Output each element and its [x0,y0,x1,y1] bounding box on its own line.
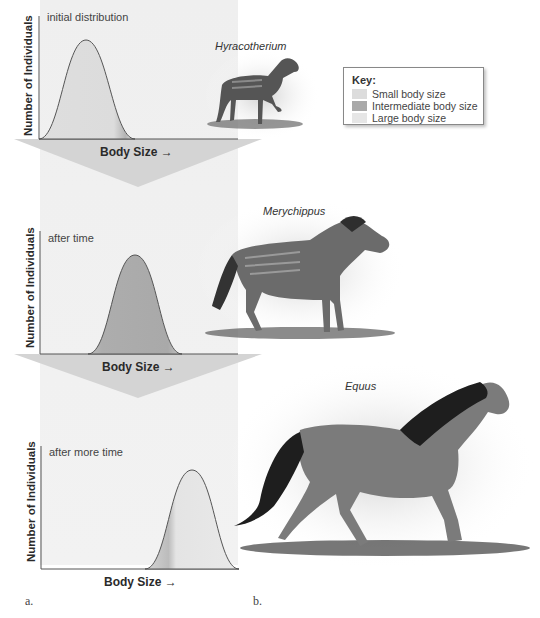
panel-2-x-axis-label: Body Size → [102,360,175,374]
equus-illustration [225,360,535,570]
swatch-large [352,113,367,123]
panel-a-label: a. [25,594,33,609]
panel-1-title: initial distribution [47,11,128,23]
key-label-intermediate: Intermediate body size [372,100,478,112]
species-label-equus: Equus [345,380,376,392]
key-item-large: Large body size [352,112,446,124]
panel-b-label: b. [253,594,262,609]
key-item-intermediate: Intermediate body size [352,100,478,112]
panel-1-y-axis-label: Number of Individuals [22,15,34,136]
panel-3-x-axis-label: Body Size → [104,575,177,589]
key-title: Key: [352,74,376,86]
curve-initial [39,40,135,139]
species-label-hyracotherium: Hyracotherium [215,40,287,52]
merychippus-illustration [195,198,405,342]
panel-3-y-axis-label: Number of Individuals [25,441,37,562]
swatch-intermediate [352,101,367,111]
species-label-merychippus: Merychippus [263,205,325,217]
key-item-small: Small body size [352,88,446,100]
curve-after-time [88,255,182,354]
curve-after-more-time [145,470,239,569]
hyracotherium-illustration [204,50,320,140]
legend-key: Key: Small body size Intermediate body s… [343,67,484,125]
panel-2-y-axis-label: Number of Individuals [24,227,36,348]
panel-3-title: after more time [49,446,123,458]
swatch-small [352,89,367,99]
key-label-small: Small body size [372,88,446,100]
panel-1-x-axis-label: Body Size → [100,145,173,159]
panel-2-title: after time [48,232,94,244]
key-label-large: Large body size [372,112,446,124]
